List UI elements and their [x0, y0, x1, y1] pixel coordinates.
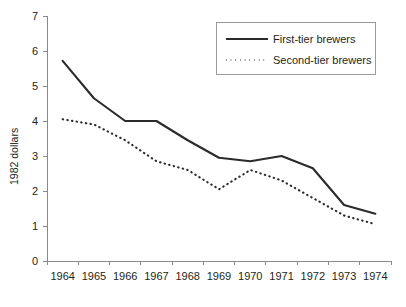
y-tick-label: 3: [32, 150, 38, 162]
x-tick-label: 1972: [301, 270, 325, 282]
y-axis-title: 1982 dollars: [8, 128, 20, 185]
x-tick-label: 1965: [82, 270, 106, 282]
line-chart: 1982 dollars 01234567 196419651966196719…: [0, 0, 406, 307]
y-tick-label: 2: [32, 185, 38, 197]
y-tick-label: 0: [32, 255, 38, 267]
series-line-second-tier-brewers: [63, 119, 376, 224]
y-tick-label: 7: [32, 10, 38, 22]
y-tick-label: 5: [32, 80, 38, 92]
y-tick-marks: [43, 16, 47, 261]
x-tick-label: 1974: [363, 270, 387, 282]
x-tick-label: 1964: [50, 270, 74, 282]
y-tick-label: 1: [32, 220, 38, 232]
x-tick-label: 1966: [113, 270, 137, 282]
x-tick-label: 1969: [207, 270, 231, 282]
series-line-first-tier-brewers: [63, 61, 376, 214]
x-tick-label: 1967: [144, 270, 168, 282]
chart-canvas: 1982 dollars 01234567 196419651966196719…: [0, 0, 406, 307]
y-tick-label: 6: [32, 45, 38, 57]
legend-box: [217, 23, 376, 75]
x-tick-label: 1973: [332, 270, 356, 282]
x-tick-marks: [47, 261, 391, 265]
chart-legend: First-tier brewers Second-tier brewers: [217, 23, 376, 75]
x-tick-label: 1971: [269, 270, 293, 282]
x-tick-label: 1970: [238, 270, 262, 282]
legend-label-first-tier-brewers: First-tier brewers: [273, 33, 356, 45]
legend-label-second-tier-brewers: Second-tier brewers: [273, 54, 372, 66]
y-tick-label: 4: [32, 115, 38, 127]
x-tick-labels: 1964196519661967196819691970197119721973…: [50, 270, 387, 282]
y-tick-labels: 01234567: [32, 10, 38, 267]
x-tick-label: 1968: [175, 270, 199, 282]
